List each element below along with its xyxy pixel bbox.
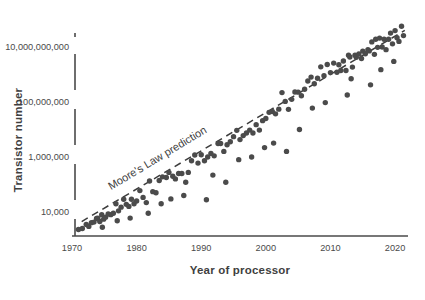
- data-point: [390, 41, 395, 46]
- data-point: [336, 62, 341, 67]
- data-point: [347, 54, 352, 59]
- data-point: [223, 180, 228, 185]
- data-point: [263, 116, 268, 121]
- data-point: [350, 64, 355, 69]
- x-tick-label: 1980: [126, 243, 146, 253]
- data-point: [257, 127, 262, 132]
- data-point: [328, 70, 333, 75]
- chart-canvas: 10,0001,000,000100,000,00010,000,000,000…: [0, 0, 425, 300]
- data-point: [401, 33, 406, 38]
- data-point: [127, 215, 132, 220]
- data-point: [383, 47, 388, 52]
- data-point: [113, 201, 118, 206]
- data-point: [118, 204, 123, 209]
- data-point: [286, 107, 291, 112]
- data-point: [284, 149, 289, 154]
- data-point: [236, 157, 241, 162]
- data-point: [153, 190, 158, 195]
- data-point: [228, 139, 233, 144]
- data-point: [302, 87, 307, 92]
- data-point: [164, 175, 169, 180]
- data-point: [345, 92, 350, 97]
- data-point: [210, 172, 215, 177]
- data-point: [348, 76, 353, 81]
- data-point: [271, 140, 276, 145]
- data-point: [168, 196, 173, 201]
- x-tick-label: 1970: [62, 243, 82, 253]
- data-point: [396, 39, 401, 44]
- data-point: [195, 160, 200, 165]
- data-point: [312, 81, 317, 86]
- data-point: [359, 56, 364, 61]
- data-point: [126, 204, 131, 209]
- data-point: [183, 180, 188, 185]
- data-point: [121, 197, 126, 202]
- data-point: [134, 198, 139, 203]
- data-point: [368, 82, 373, 87]
- data-point: [111, 211, 116, 216]
- y-axis-title: Transistor number: [12, 87, 24, 192]
- x-tick-label: 2020: [385, 243, 405, 253]
- data-point: [315, 76, 320, 81]
- y-tick-label: 1,000,000: [28, 152, 69, 162]
- data-point: [250, 130, 255, 135]
- data-point: [323, 100, 328, 105]
- data-point: [166, 170, 171, 175]
- data-point: [341, 58, 346, 63]
- y-tick-label: 10,000: [41, 207, 69, 217]
- data-point: [338, 68, 343, 73]
- data-point: [192, 152, 197, 157]
- x-tick-label: 2010: [320, 243, 340, 253]
- data-point: [100, 225, 105, 230]
- data-point: [231, 134, 236, 139]
- data-point: [173, 176, 178, 181]
- data-point: [377, 35, 382, 40]
- data-point: [147, 178, 152, 183]
- data-point: [144, 200, 149, 205]
- data-point: [189, 158, 194, 163]
- data-point: [218, 141, 223, 146]
- data-point: [399, 24, 404, 29]
- data-point: [140, 195, 145, 200]
- x-tick-label: 1990: [191, 243, 211, 253]
- data-point: [289, 97, 294, 102]
- data-point: [158, 201, 163, 206]
- y-tick-label: 100,000,000: [18, 97, 69, 107]
- data-point: [115, 218, 120, 223]
- data-point: [392, 28, 397, 33]
- y-tick-label: 10,000,000,000: [5, 42, 69, 52]
- data-point: [367, 48, 372, 53]
- x-tick-label: 2000: [256, 243, 276, 253]
- data-point: [211, 153, 216, 158]
- data-point: [386, 37, 391, 42]
- data-point: [378, 67, 383, 72]
- data-point: [321, 73, 326, 78]
- moores-law-chart: 10,0001,000,000100,000,00010,000,000,000…: [0, 0, 425, 300]
- data-point: [283, 99, 288, 104]
- data-point: [179, 171, 184, 176]
- data-point: [249, 154, 254, 159]
- data-point: [331, 60, 336, 65]
- data-point: [308, 74, 313, 79]
- data-point: [137, 188, 142, 193]
- data-point: [221, 149, 226, 154]
- data-point: [234, 128, 239, 133]
- data-point: [273, 111, 278, 116]
- data-point: [199, 152, 204, 157]
- data-point: [146, 211, 151, 216]
- data-point: [325, 62, 330, 67]
- data-point: [318, 64, 323, 69]
- data-point: [262, 145, 267, 150]
- data-point: [279, 90, 284, 95]
- data-point: [186, 170, 191, 175]
- data-point: [204, 197, 209, 202]
- data-point: [388, 30, 393, 35]
- data-point: [80, 226, 85, 231]
- data-point: [297, 127, 302, 132]
- data-point: [276, 106, 281, 111]
- data-point: [253, 122, 258, 127]
- data-point: [372, 52, 377, 57]
- data-point: [343, 68, 348, 73]
- data-point: [181, 193, 186, 198]
- data-point: [299, 93, 304, 98]
